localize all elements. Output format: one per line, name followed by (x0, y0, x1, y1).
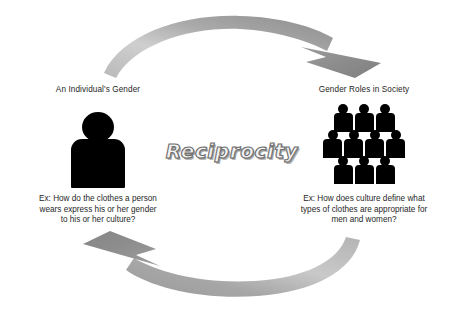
group-person-icon (355, 104, 374, 132)
group-person-icon (323, 130, 342, 158)
group-person-icon (376, 156, 395, 184)
caption-line: types of clothes are appropriate for (272, 205, 456, 216)
caption-line: wears express his or her gender (8, 205, 188, 216)
node-individual-title: An Individual's Gender (8, 84, 188, 95)
node-individual-caption: Ex: How do the clothes a person wears ex… (8, 194, 188, 226)
node-gender-roles-society: Gender Roles in Society (272, 84, 456, 226)
diagram-canvas: An Individual's Gender Ex: How do the cl… (0, 0, 464, 318)
person-body-icon (71, 139, 125, 188)
group-person-icon (365, 130, 384, 158)
node-society-caption: Ex: How does culture define what types o… (272, 194, 456, 226)
arrow-individual-to-society (104, 16, 381, 78)
caption-line: men and women? (272, 215, 456, 226)
caption-line: Ex: How does culture define what (272, 194, 456, 205)
individual-figure (8, 102, 188, 188)
group-person-icon (334, 156, 353, 184)
arrow-society-to-individual (83, 231, 360, 297)
group-person-icon (386, 130, 405, 158)
caption-line: to his or her culture? (8, 215, 188, 226)
group-person-icon (376, 104, 395, 132)
group-row-middle (321, 130, 407, 158)
group-row-top (321, 104, 407, 132)
node-individual-gender: An Individual's Gender Ex: How do the cl… (8, 84, 188, 226)
caption-line: Ex: How do the clothes a person (8, 194, 188, 205)
person-head-icon (82, 112, 114, 142)
group-row-bottom (321, 156, 407, 184)
single-person-icon (71, 112, 125, 188)
group-person-icon (334, 104, 353, 132)
group-person-icon (344, 130, 363, 158)
group-of-people-icon (321, 104, 407, 188)
society-figure (272, 102, 456, 188)
group-person-icon (355, 156, 374, 184)
node-society-title: Gender Roles in Society (272, 84, 456, 95)
